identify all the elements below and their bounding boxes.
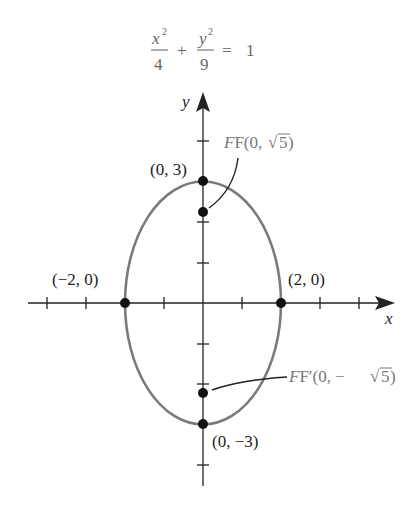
svg-text:FF(0,: FF(0, [223,133,262,152]
label-left-vertex: (−2, 0) [52,270,98,289]
focus-bottom-suffix: ) [390,367,396,386]
equals-sign: = [222,41,232,60]
label-bottom-vertex: (0, −3) [212,432,258,451]
focus-bottom-leader [212,377,287,390]
label-focus-bottom: FF′(0, − √ 5 ) [288,367,396,386]
focus-bottom-radicand: 5 [381,367,390,386]
focus-top-prefix: F(0, [234,133,262,152]
y-axis-label: y [180,92,190,111]
svg-text:FF′(0, −: FF′(0, − [288,367,345,386]
term1-denominator: 4 [154,55,163,74]
label-right-vertex: (2, 0) [288,270,325,289]
label-focus-top: FF(0, √ 5 ) [223,133,294,152]
point-right-vertex [276,298,286,308]
term2-exponent: 2 [208,26,213,37]
focus-bottom-prefix: F′(0, − [299,367,344,386]
label-top-vertex: (0, 3) [150,160,187,179]
point-bottom-vertex [198,419,208,429]
sqrt-icon: √ [268,133,278,152]
point-focus-top [198,207,208,217]
plus-sign: + [177,41,187,60]
sqrt-icon: √ [370,367,380,386]
term1-numerator: x [151,29,160,48]
point-left-vertex [120,298,130,308]
term2-denominator: 9 [200,55,209,74]
ellipse-diagram: x 2 4 + y 2 9 = 1 x y [0,0,418,507]
x-axis [28,297,380,309]
focus-top-radicand: 5 [279,133,288,152]
rhs-value: 1 [246,41,255,60]
point-top-vertex [198,176,208,186]
point-focus-bottom [198,388,208,398]
x-axis-label: x [384,309,393,328]
focus-top-suffix: ) [288,133,294,152]
term1-exponent: 2 [162,26,167,37]
term2-numerator: y [197,29,207,48]
equation: x 2 4 + y 2 9 = 1 [151,26,255,74]
